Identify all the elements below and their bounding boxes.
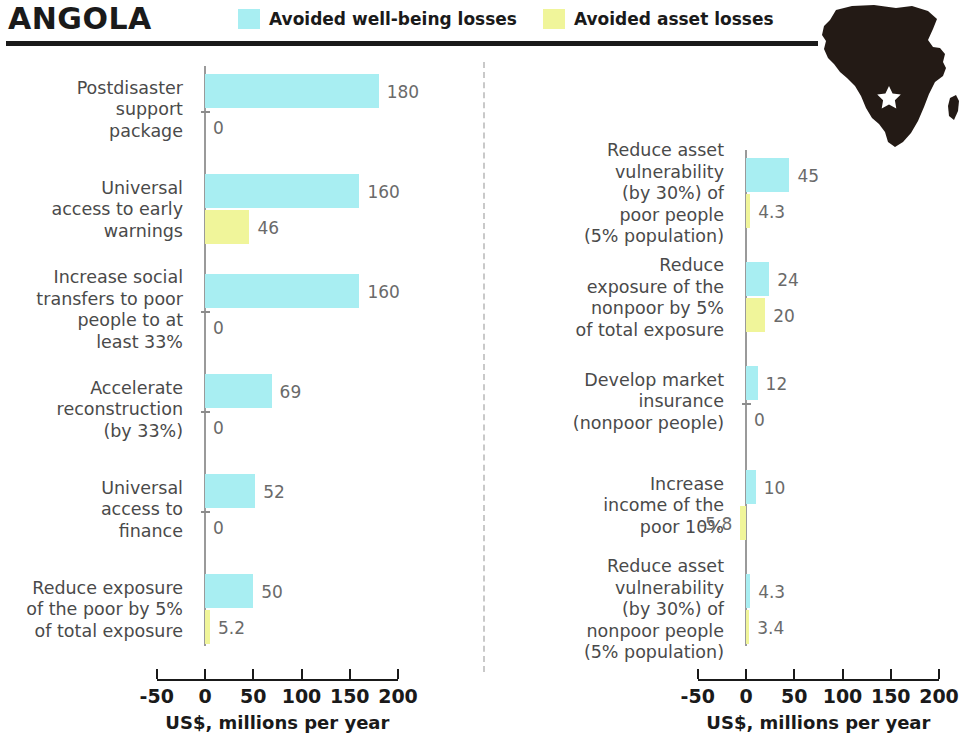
category-label-line: Reduce bbox=[497, 255, 724, 277]
category-label: Increaseincome of thepoor 10% bbox=[497, 474, 724, 539]
x-axis-tick-label: -50 bbox=[681, 685, 715, 707]
panel-divider bbox=[483, 62, 485, 672]
bar-wellbeing bbox=[205, 274, 359, 308]
bar-wellbeing bbox=[205, 174, 359, 208]
x-axis-tick bbox=[938, 669, 940, 679]
bar-value-wellbeing: 50 bbox=[261, 582, 283, 602]
category-label-line: of total exposure bbox=[0, 621, 183, 643]
x-axis-tick-label: 0 bbox=[198, 685, 211, 707]
zero-tick-stub bbox=[201, 311, 210, 313]
category-label-line: Postdisaster bbox=[0, 78, 183, 100]
zero-tick-stub bbox=[201, 111, 210, 113]
x-axis-title: US$, millions per year bbox=[706, 712, 930, 733]
category-label-line: nonpoor people bbox=[497, 621, 724, 643]
x-axis-tick bbox=[204, 669, 206, 679]
x-axis-line bbox=[157, 679, 398, 681]
chart-panel-right: Reduce assetvulnerability(by 30%) ofpoor… bbox=[497, 0, 974, 724]
x-axis-tick bbox=[252, 669, 254, 679]
bar-wellbeing bbox=[746, 574, 750, 608]
x-axis-tick-label: 50 bbox=[781, 685, 807, 707]
category-label-line: Accelerate bbox=[0, 378, 183, 400]
category-label-line: Reduce asset bbox=[497, 556, 724, 578]
category-label: Postdisastersupportpackage bbox=[0, 78, 183, 143]
category-label: Universalaccess tofinance bbox=[0, 478, 183, 543]
bar-value-asset: 4.3 bbox=[758, 202, 785, 222]
chart-group: Postdisastersupportpackage1800 bbox=[0, 72, 470, 148]
category-label-line: access to bbox=[0, 499, 183, 521]
bar-wellbeing bbox=[205, 374, 272, 408]
bar-asset bbox=[746, 194, 750, 228]
chart-panel-left: Postdisastersupportpackage1800Universala… bbox=[0, 0, 470, 724]
bar-value-wellbeing: 10 bbox=[764, 478, 786, 498]
x-axis-tick-label: 150 bbox=[330, 685, 370, 707]
category-label: Increase socialtransfers to poorpeople t… bbox=[0, 267, 183, 353]
x-axis-tick-label: 200 bbox=[378, 685, 418, 707]
bar-value-asset: 0 bbox=[213, 118, 224, 138]
bar-asset bbox=[205, 610, 210, 644]
bar-wellbeing bbox=[746, 366, 758, 400]
x-axis-tick bbox=[745, 669, 747, 679]
zero-axis-line bbox=[204, 66, 206, 646]
zero-tick-stub bbox=[742, 403, 751, 405]
category-label-line: insurance bbox=[497, 391, 724, 413]
x-axis-title: US$, millions per year bbox=[165, 712, 389, 733]
category-label-line: vulnerability bbox=[497, 162, 724, 184]
x-axis-tick bbox=[397, 669, 399, 679]
bar-asset bbox=[746, 610, 749, 644]
x-axis-tick-label: 100 bbox=[823, 685, 863, 707]
bar-value-asset: 46 bbox=[257, 218, 279, 238]
chart-group: Universalaccess to earlywarnings16046 bbox=[0, 172, 470, 248]
category-label-line: (by 30%) of bbox=[497, 599, 724, 621]
bar-value-wellbeing: 4.3 bbox=[758, 582, 785, 602]
chart-group: Reduceexposure of thenonpoor by 5%of tot… bbox=[497, 260, 974, 336]
category-label-line: people to at bbox=[0, 310, 183, 332]
x-axis-tick-label: 150 bbox=[871, 685, 911, 707]
category-label-line: Reduce asset bbox=[497, 140, 724, 162]
category-label-line: poor 10% bbox=[497, 517, 724, 539]
chart-group: Increaseincome of thepoor 10%10-5.8 bbox=[497, 468, 974, 544]
chart-group: Universalaccess tofinance520 bbox=[0, 472, 470, 548]
zero-tick-stub bbox=[201, 411, 210, 413]
category-label: Universalaccess to earlywarnings bbox=[0, 178, 183, 243]
category-label: Reduce exposureof the poor by 5%of total… bbox=[0, 578, 183, 643]
bar-value-asset: 0 bbox=[754, 410, 765, 430]
x-axis-tick-label: 100 bbox=[282, 685, 322, 707]
chart-group: Reduce assetvulnerability(by 30%) ofnonp… bbox=[497, 572, 974, 648]
bar-value-asset: 20 bbox=[773, 306, 795, 326]
x-axis-tick bbox=[842, 669, 844, 679]
category-label: Reduceexposure of thenonpoor by 5%of tot… bbox=[497, 255, 724, 341]
bar-wellbeing bbox=[746, 262, 769, 296]
x-axis-tick bbox=[697, 669, 699, 679]
category-label-line: exposure of the bbox=[497, 277, 724, 299]
bar-asset bbox=[740, 506, 746, 540]
chart-group: Increase socialtransfers to poorpeople t… bbox=[0, 272, 470, 348]
x-axis-tick-label: 0 bbox=[739, 685, 752, 707]
category-label-line: Develop market bbox=[497, 370, 724, 392]
category-label-line: (by 33%) bbox=[0, 421, 183, 443]
x-axis-tick-label: 50 bbox=[240, 685, 266, 707]
bar-value-asset: 5.2 bbox=[218, 618, 245, 638]
bar-wellbeing bbox=[746, 158, 789, 192]
category-label-line: nonpoor by 5% bbox=[497, 298, 724, 320]
category-label-line: Increase bbox=[497, 474, 724, 496]
category-label-line: package bbox=[0, 121, 183, 143]
x-axis-tick-label: -50 bbox=[140, 685, 174, 707]
x-axis-tick bbox=[890, 669, 892, 679]
x-axis-line bbox=[698, 679, 939, 681]
category-label-line: support bbox=[0, 99, 183, 121]
category-label-line: (by 30%) of bbox=[497, 183, 724, 205]
category-label: Reduce assetvulnerability(by 30%) ofnonp… bbox=[497, 556, 724, 664]
x-axis-tick bbox=[156, 669, 158, 679]
bar-asset bbox=[746, 298, 765, 332]
x-axis-tick bbox=[793, 669, 795, 679]
category-label-line: finance bbox=[0, 521, 183, 543]
category-label-line: income of the bbox=[497, 495, 724, 517]
category-label-line: transfers to poor bbox=[0, 289, 183, 311]
category-label-line: Universal bbox=[0, 478, 183, 500]
bar-value-wellbeing: 180 bbox=[387, 82, 419, 102]
bar-value-wellbeing: 52 bbox=[263, 482, 285, 502]
category-label-line: least 33% bbox=[0, 332, 183, 354]
bar-value-wellbeing: 45 bbox=[797, 166, 819, 186]
category-label-line: reconstruction bbox=[0, 399, 183, 421]
x-axis-tick bbox=[301, 669, 303, 679]
